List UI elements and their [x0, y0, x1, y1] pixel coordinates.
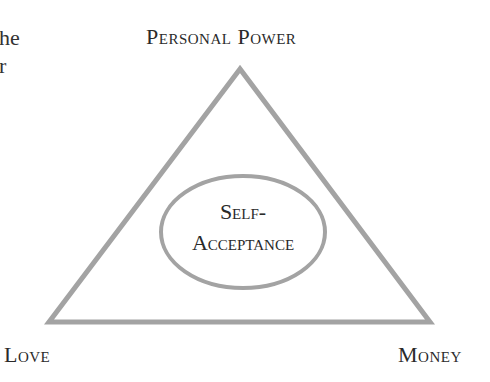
label-personal-power: Personal Power — [146, 24, 296, 50]
triangle-diagram — [0, 0, 490, 382]
center-label-line-1: Self- — [160, 196, 326, 227]
center-label: Self- Acceptance — [160, 196, 326, 258]
label-money: Money — [398, 342, 462, 368]
label-love: Love — [4, 342, 50, 368]
center-label-line-2: Acceptance — [160, 227, 326, 258]
